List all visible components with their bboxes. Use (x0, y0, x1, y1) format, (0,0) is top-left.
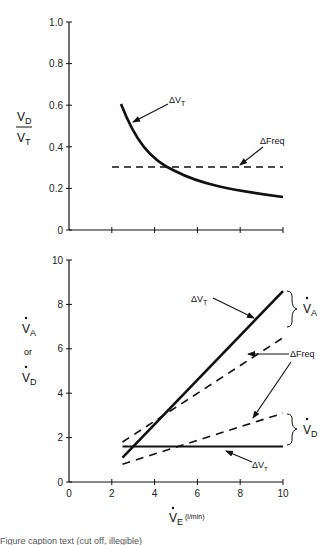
svg-text:1.0: 1.0 (49, 17, 63, 28)
bottom-y-tick-labels: 0 2 4 6 8 10 (52, 255, 64, 488)
svg-text:0.8: 0.8 (49, 58, 63, 69)
top-dvt-arrow (133, 104, 168, 122)
svg-text:VA: VA (22, 322, 36, 338)
svg-text:2: 2 (109, 488, 115, 499)
vd-dvt-arrow (226, 451, 252, 462)
svg-text:VD: VD (22, 371, 37, 387)
svg-text:VD: VD (17, 110, 32, 126)
vd-brace-icon (287, 414, 297, 445)
svg-text:0.6: 0.6 (49, 100, 63, 111)
svg-text:8: 8 (57, 299, 63, 310)
svg-text:2: 2 (57, 432, 63, 443)
va-brace-label: VA (303, 302, 317, 318)
svg-text:6: 6 (195, 488, 201, 499)
dfreq-label: ΔFreq (290, 349, 315, 359)
svg-text:0.4: 0.4 (49, 142, 63, 153)
vd-dfreq-arrow (253, 362, 291, 418)
svg-text:8: 8 (237, 488, 243, 499)
bottom-x-tick-labels: 0 2 4 6 8 10 (66, 488, 289, 499)
va-dvt-line (123, 291, 284, 458)
svg-text:4: 4 (57, 388, 63, 399)
va-brace-icon (287, 291, 297, 327)
figure-caption: Figure caption text (cut off, illegible) (0, 536, 334, 545)
svg-text:0.2: 0.2 (49, 183, 63, 194)
va-dvt-label: ΔVT (191, 294, 208, 306)
bottom-chart: 0 2 4 6 8 10 0 2 4 6 8 10 VA or VD VE(l/… (22, 255, 318, 527)
svg-text:0: 0 (57, 225, 63, 236)
svg-text:or: or (24, 347, 32, 357)
top-chart: 0 0.2 0.4 0.6 0.8 1.0 VD VT ΔVT ΔFreq (16, 17, 285, 236)
svg-text:10: 10 (52, 255, 64, 266)
top-dvt-label: ΔVT (169, 95, 186, 107)
svg-text:0: 0 (57, 477, 63, 488)
vd-dvt-label: ΔVT (252, 460, 268, 472)
svg-text:6: 6 (57, 343, 63, 354)
va-dfreq-line (123, 338, 284, 442)
svg-text:10: 10 (277, 488, 289, 499)
top-dfreq-label: ΔFreq (260, 136, 285, 146)
vd-dfreq-line (123, 413, 284, 464)
svg-text:4: 4 (152, 488, 158, 499)
bottom-x-label: VE(l/min) (169, 507, 204, 527)
bottom-y-label: VA or VD (22, 317, 37, 387)
top-dfreq-arrow (240, 147, 263, 165)
vd-brace-label: VD (303, 423, 318, 439)
top-y-tick-labels: 0 0.2 0.4 0.6 0.8 1.0 (49, 17, 63, 236)
top-y-label: VD VT (16, 110, 32, 147)
svg-text:VE(l/min): VE(l/min) (169, 511, 204, 527)
svg-text:VT: VT (17, 131, 31, 147)
figure: 0 0.2 0.4 0.6 0.8 1.0 VD VT ΔVT ΔFreq (0, 0, 334, 545)
svg-text:0: 0 (66, 488, 72, 499)
va-dvt-arrow (213, 298, 254, 318)
